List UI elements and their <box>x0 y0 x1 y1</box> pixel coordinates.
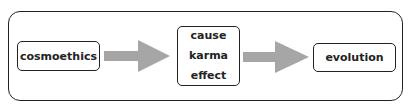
node-evolution: evolution <box>313 43 396 72</box>
node-label: cause <box>191 26 227 46</box>
node-label: effect <box>191 66 227 86</box>
node-label: cosmoethics <box>20 50 97 63</box>
arrow-right-icon <box>104 40 172 72</box>
node-cosmoethics: cosmoethics <box>17 41 100 71</box>
arrow-right-icon <box>243 41 311 73</box>
node-cause-karma-effect: cause karma effect <box>177 26 240 86</box>
node-label: karma <box>189 46 228 66</box>
node-label: evolution <box>325 51 383 64</box>
